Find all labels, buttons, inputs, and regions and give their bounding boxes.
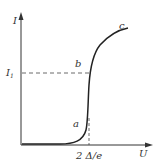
y-axis bbox=[19, 12, 24, 145]
iv-curve-diagram: I U I1 2 Δ/e a b c bbox=[0, 0, 157, 167]
threshold-label: 2 Δ/e bbox=[75, 150, 102, 161]
current-level-subscript: 1 bbox=[10, 72, 14, 79]
x-axis-label: U bbox=[139, 148, 148, 159]
point-c-label: c bbox=[119, 20, 125, 31]
y-axis-label: I bbox=[12, 15, 18, 26]
y-axis-arrow-icon bbox=[19, 12, 24, 20]
point-b-label: b bbox=[75, 58, 81, 69]
x-axis-arrow-icon bbox=[145, 143, 153, 148]
point-a-label: a bbox=[73, 118, 79, 129]
current-level-label: I1 bbox=[5, 67, 14, 79]
